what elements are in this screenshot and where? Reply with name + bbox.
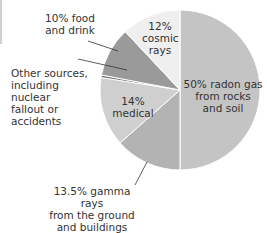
label-gamma: 13.5% gamma rays from the ground and bui… xyxy=(42,185,142,233)
label-cosmic: 12% cosmic rays xyxy=(142,20,178,56)
label-food: 10% food and drink xyxy=(38,12,102,36)
label-medical: 14% medical xyxy=(108,95,158,119)
leader-gamma xyxy=(135,162,147,185)
label-other: Other sources, including nuclear fallout… xyxy=(11,67,91,127)
label-radon: 50% radon gas from rocks and soil xyxy=(182,78,264,114)
